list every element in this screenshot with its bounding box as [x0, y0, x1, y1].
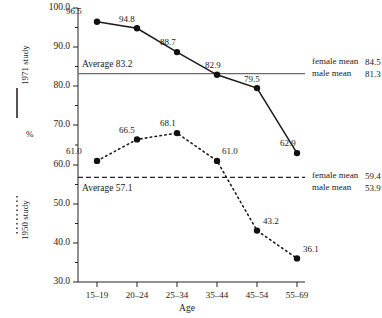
y-tick-label: 80.0 — [36, 81, 70, 91]
female-mean-value-1971: 84.5 — [365, 57, 381, 67]
legend-label-1950: 1950 study — [21, 200, 30, 240]
point-label-1971: 62.9 — [280, 139, 296, 148]
point-label-1950: 61.0 — [222, 147, 238, 156]
point-label-1971: 94.8 — [119, 15, 135, 24]
male-mean-value-1950: 53.9 — [365, 183, 381, 193]
x-tick-label: 45–54 — [235, 291, 279, 300]
x-tick-label: 35–44 — [195, 291, 239, 300]
male-mean-label-1971: male mean — [312, 69, 351, 78]
x-tick-label: 55–69 — [275, 291, 319, 300]
legend-label-1971: 1971 study — [21, 45, 30, 85]
x-axis-ticks — [97, 282, 297, 287]
point-label-1950: 36.1 — [303, 245, 319, 254]
female-mean-value-1950: 59.4 — [365, 171, 381, 181]
chart-container: 100.0 90.0 80.0 70.0 60.0 50.0 40.0 30.0… — [0, 0, 382, 318]
average-label-1950: Average 57.1 — [82, 184, 132, 194]
series-markers-1971 — [94, 19, 300, 157]
y-tick-label: 50.0 — [36, 199, 70, 209]
point-label-1950: 68.1 — [160, 119, 176, 128]
point-label-1950: 43.2 — [263, 217, 279, 226]
y-tick-label: 30.0 — [36, 277, 70, 287]
y-tick-label: 90.0 — [36, 42, 70, 52]
male-mean-value-1971: 81.3 — [365, 69, 381, 79]
y-tick-label: 100.0 — [36, 3, 70, 13]
male-mean-label-1950: male mean — [312, 183, 351, 192]
point-label-1950: 66.5 — [119, 126, 135, 135]
point-label-1950: 61.0 — [66, 147, 82, 156]
x-tick-label: 25–34 — [155, 291, 199, 300]
female-mean-label-1971: female mean — [312, 57, 358, 66]
y-tick-label: 70.0 — [36, 120, 70, 130]
female-mean-label-1950: female mean — [312, 171, 358, 180]
point-label-1971: 79.5 — [244, 75, 260, 84]
point-label-1971: 88.7 — [160, 38, 176, 47]
y-tick-label: 40.0 — [36, 238, 70, 248]
series-line-1950 — [97, 133, 297, 258]
y-axis-unit-label: % — [26, 130, 34, 139]
y-tick-label: 60.0 — [36, 160, 70, 170]
point-label-1971: 82.9 — [205, 61, 221, 70]
x-tick-label: 15–19 — [75, 291, 119, 300]
series-markers-1950 — [94, 130, 300, 262]
x-axis-title: Age — [157, 304, 217, 314]
average-label-1971: Average 83.2 — [82, 60, 132, 70]
point-label-1971: 96.5 — [66, 7, 82, 16]
x-tick-label: 20–24 — [115, 291, 159, 300]
